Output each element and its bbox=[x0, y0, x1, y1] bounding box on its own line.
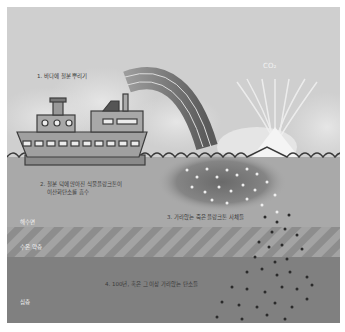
layer-thermocline bbox=[7, 227, 340, 257]
step-4-label: 4. 100년, 혹은 그 이상 가라앉는 탄소들 bbox=[105, 281, 198, 288]
step-2-label-line2: 이산화탄소를 흡수 bbox=[47, 189, 89, 196]
diagram-illustration bbox=[7, 7, 340, 323]
layer-label-deep: 심층 bbox=[20, 299, 30, 306]
step-2-label-line1: 2. 철분 덕에 많아진 식물플랑크톤이 bbox=[40, 181, 122, 188]
step-1-label: 1. 바다에 철분 뿌리기 bbox=[37, 73, 88, 80]
iron-fertilization-diagram: 1. 바다에 철분 뿌리기 CO₂ 2. 철분 덕에 많아진 식물플랑크톤이 이… bbox=[7, 7, 340, 323]
co2-label: CO₂ bbox=[263, 63, 276, 70]
layer-deep bbox=[7, 257, 340, 323]
layer-label-surface: 해수면 bbox=[20, 219, 35, 226]
layer-label-thermocline: 수온 약층 bbox=[20, 244, 42, 251]
step-3-label: 3. 가라앉는 죽은 플랑크톤 사체들 bbox=[167, 214, 244, 221]
